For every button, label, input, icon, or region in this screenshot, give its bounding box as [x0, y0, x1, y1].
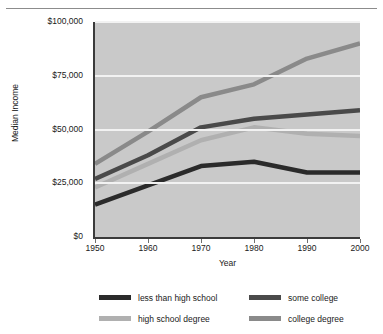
gridline — [95, 21, 360, 23]
gridline — [95, 129, 360, 131]
legend-label: high school degree — [138, 314, 210, 324]
x-axis-tick-label: 1950 — [75, 243, 115, 253]
series-line — [95, 44, 360, 164]
legend-item[interactable]: some college — [249, 293, 369, 303]
x-axis-title: Year — [95, 258, 360, 268]
legend-swatch — [249, 295, 281, 300]
y-axis-title: Median Income — [10, 68, 20, 158]
x-axis-tick-label: 1960 — [128, 243, 168, 253]
gridline — [95, 75, 360, 77]
series-line — [95, 127, 360, 187]
legend-label: college degree — [288, 314, 344, 324]
chart-figure: $0$25,000$50,000$75,000$100,000 19501960… — [0, 0, 383, 334]
legend-swatch — [249, 316, 281, 321]
x-axis-tick-label: 1980 — [234, 243, 274, 253]
y-axis-tick-label: $100,000 — [0, 16, 89, 26]
plot-area — [95, 22, 360, 237]
gridline — [95, 182, 360, 184]
chart-legend: less than high schoolsome collegehigh sc… — [99, 287, 369, 329]
legend-label: some college — [288, 293, 338, 303]
legend-swatch — [99, 316, 131, 321]
x-axis-tick-label: 2000 — [340, 243, 380, 253]
legend-item[interactable]: high school degree — [99, 314, 249, 324]
y-axis-tick-label: $0 — [0, 231, 89, 241]
legend-label: less than high school — [138, 293, 217, 303]
legend-item[interactable]: college degree — [249, 314, 369, 324]
x-axis-tick-label: 1990 — [287, 243, 327, 253]
x-axis-line — [95, 237, 360, 239]
x-axis-tick-label: 1970 — [181, 243, 221, 253]
y-axis-tick-label: $25,000 — [0, 177, 89, 187]
y-axis-line — [93, 22, 95, 239]
legend-swatch — [99, 295, 131, 300]
legend-item[interactable]: less than high school — [99, 293, 249, 303]
